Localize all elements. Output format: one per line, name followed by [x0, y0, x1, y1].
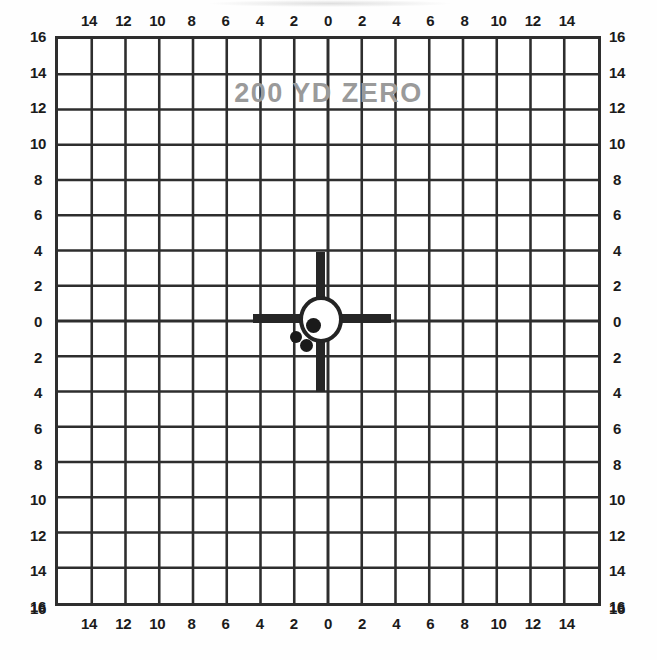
axis-label-top-4: 6 [222, 12, 230, 29]
axis-label-left-14: 12 [30, 526, 46, 543]
axis-label-right-14: 12 [609, 526, 625, 543]
axis-label-right-0: 16 [609, 28, 625, 45]
axis-label-bottom-6: 2 [290, 615, 298, 632]
axis-label-left-15: 14 [30, 562, 46, 579]
axis-label-right-4: 8 [613, 170, 621, 187]
axis-label-left-6: 4 [34, 241, 42, 258]
axis-label-top-3: 8 [187, 12, 195, 29]
axis-label-left-10: 4 [34, 384, 42, 401]
axis-label-left-5: 6 [34, 206, 42, 223]
axis-label-right-13: 10 [609, 491, 625, 508]
axis-label-top-2: 10 [149, 12, 165, 29]
axis-label-bottom-13: 12 [525, 615, 541, 632]
axis-label-bottom-0: 14 [81, 615, 97, 632]
axis-label-top-10: 6 [426, 12, 434, 29]
axis-label-top-6: 2 [290, 12, 298, 29]
axis-label-top-11: 8 [460, 12, 468, 29]
axis-label-right-10: 4 [613, 384, 621, 401]
axis-label-bottom-2: 10 [149, 615, 165, 632]
axis-label-left-4: 8 [34, 170, 42, 187]
axis-ruler-right: 1614121086420246810121416 [601, 0, 657, 660]
axis-label-top-14: 14 [559, 12, 575, 29]
axis-label-bottom-9: 4 [392, 615, 400, 632]
axis-label-bottom-4: 6 [222, 615, 230, 632]
axis-label-top-9: 4 [392, 12, 400, 29]
axis-label-right-12: 8 [613, 455, 621, 472]
axis-label-left-0: 16 [30, 28, 46, 45]
axis-label-top-5: 4 [256, 12, 264, 29]
axis-label-right-15: 14 [609, 562, 625, 579]
axis-label-top-13: 12 [525, 12, 541, 29]
axis-label-bottom-10: 6 [426, 615, 434, 632]
aim-point-group [243, 242, 401, 402]
axis-label-top-12: 10 [491, 12, 507, 29]
axis-label-right-11: 6 [613, 419, 621, 436]
axis-label-top-7: 0 [324, 12, 332, 29]
axis-label-bottom-3: 8 [187, 615, 195, 632]
axis-label-left-3: 10 [30, 134, 46, 151]
axis-label-right-3: 10 [609, 134, 625, 151]
axis-label-top-0: 14 [81, 12, 97, 29]
axis-label-bottom-corner-right-1: 16 [609, 600, 625, 617]
axis-label-bottom-corner-left-0: 16 [30, 600, 46, 617]
bullet-hole [306, 318, 321, 333]
axis-label-right-6: 4 [613, 241, 621, 258]
axis-label-bottom-7: 0 [324, 615, 332, 632]
axis-label-right-8: 0 [613, 313, 621, 330]
axis-label-bottom-5: 4 [256, 615, 264, 632]
bullet-hole [300, 339, 313, 352]
axis-label-bottom-8: 2 [358, 615, 366, 632]
axis-label-bottom-14: 14 [559, 615, 575, 632]
axis-label-left-8: 0 [34, 313, 42, 330]
aim-circle [299, 296, 343, 343]
axis-label-left-1: 14 [30, 63, 46, 80]
sight-in-target-sheet: 141210864202468101214 161412108642024681… [0, 0, 657, 660]
axis-label-right-7: 2 [613, 277, 621, 294]
axis-ruler-top: 141210864202468101214 [0, 0, 657, 36]
axis-label-bottom-11: 8 [460, 615, 468, 632]
axis-ruler-left: 1614121086420246810121416 [0, 0, 55, 660]
axis-label-right-2: 12 [609, 99, 625, 116]
axis-label-top-1: 12 [115, 12, 131, 29]
axis-label-left-9: 2 [34, 348, 42, 365]
axis-label-left-7: 2 [34, 277, 42, 294]
axis-label-top-8: 2 [358, 12, 366, 29]
axis-label-left-12: 8 [34, 455, 42, 472]
axis-ruler-bottom: 1412108642024681012141616 [0, 606, 657, 660]
axis-label-right-1: 14 [609, 63, 625, 80]
axis-label-left-2: 12 [30, 99, 46, 116]
axis-label-left-13: 10 [30, 491, 46, 508]
axis-label-bottom-12: 10 [491, 615, 507, 632]
axis-label-right-5: 6 [613, 206, 621, 223]
axis-label-left-11: 6 [34, 419, 42, 436]
axis-label-bottom-1: 12 [115, 615, 131, 632]
axis-label-right-9: 2 [613, 348, 621, 365]
